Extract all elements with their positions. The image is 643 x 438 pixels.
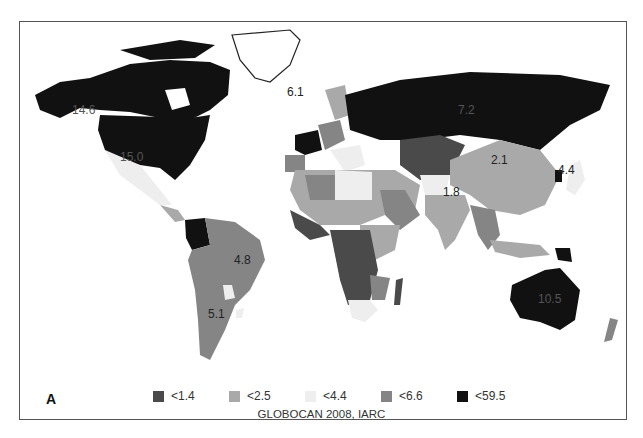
region-south-africa	[348, 300, 378, 322]
region-canada-arctic	[120, 40, 215, 60]
source-credit: GLOBOCAN 2008, IARC	[0, 408, 643, 420]
region-usa	[98, 115, 210, 180]
world-map	[0, 0, 643, 438]
label-china: 2.1	[491, 153, 508, 167]
legend-label: <1.4	[171, 389, 195, 403]
region-india	[425, 195, 470, 250]
legend-label: <6.6	[399, 389, 423, 403]
legend-swatch	[229, 391, 240, 402]
legend-swatch	[305, 391, 316, 402]
legend-swatch	[381, 391, 392, 402]
label-brazil: 4.8	[234, 253, 251, 267]
legend-label: <2.5	[247, 389, 271, 403]
region-central-europe	[318, 120, 345, 150]
region-italy-balkans	[330, 145, 365, 172]
region-canada	[90, 60, 230, 120]
region-indonesia	[490, 240, 550, 258]
label-japan: 4.4	[558, 163, 575, 177]
legend-item: <4.4	[305, 389, 381, 403]
region-madagascar	[394, 278, 403, 305]
region-uruguay	[236, 308, 244, 318]
legend-item: <59.5	[457, 389, 533, 403]
label-australia: 10.5	[538, 292, 561, 306]
legend-label: <59.5	[475, 389, 505, 403]
region-central-africa	[330, 230, 378, 305]
label-russia: 7.2	[458, 103, 475, 117]
legend-swatch	[457, 391, 468, 402]
region-mozambique	[370, 275, 390, 300]
region-egypt-libya	[335, 170, 372, 200]
region-russia	[345, 72, 610, 150]
region-new-zealand	[604, 318, 618, 342]
legend-item: <6.6	[381, 389, 457, 403]
region-iberia	[285, 155, 305, 172]
label-india: 1.8	[443, 185, 460, 199]
region-central-america	[160, 205, 185, 222]
region-algeria	[305, 175, 335, 200]
label-canada: 14.6	[72, 103, 95, 117]
label-usa: 15.0	[120, 150, 143, 164]
region-greenland	[232, 30, 300, 82]
legend-item: <1.4	[153, 389, 229, 403]
legend-item: <2.5	[229, 389, 305, 403]
panel-letter: A	[46, 391, 56, 407]
legend-label: <4.4	[323, 389, 347, 403]
legend-swatch	[153, 391, 164, 402]
region-png	[555, 248, 572, 262]
region-western-europe	[295, 130, 322, 155]
label-argentina: 5.1	[208, 307, 225, 321]
map-legend: <1.4 <2.5 <4.4 <6.6 <59.5	[153, 389, 533, 403]
label-greenland: 6.1	[287, 85, 304, 99]
